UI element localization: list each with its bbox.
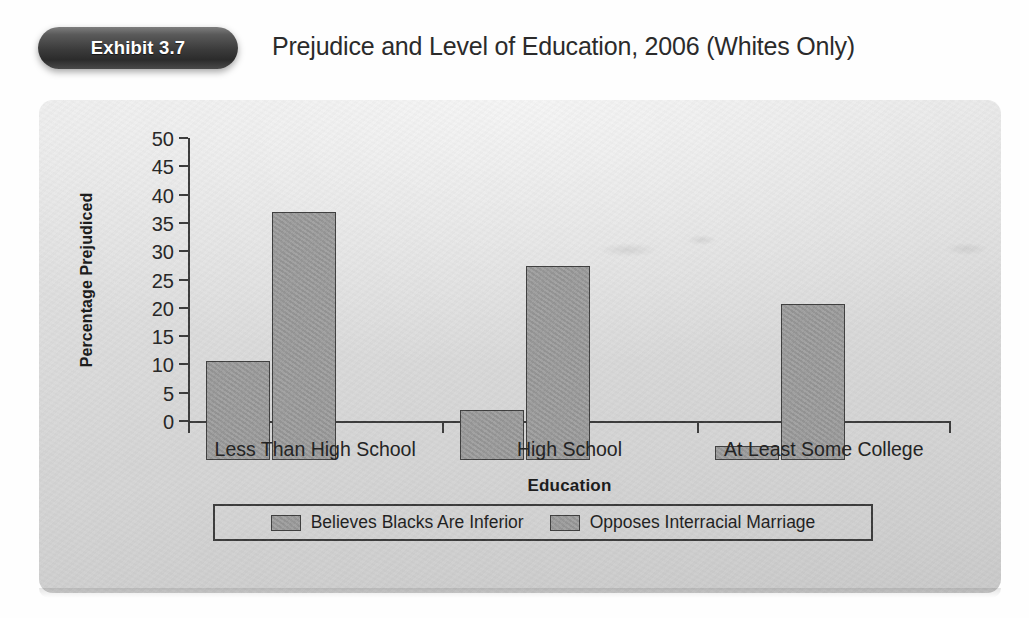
- y-axis-tick-label: 20: [134, 298, 174, 321]
- y-axis-tick-label: 5: [134, 383, 174, 406]
- y-axis-tick: [179, 307, 188, 309]
- y-axis-tick-label: 40: [134, 185, 174, 208]
- x-axis-title: Education: [188, 476, 951, 496]
- x-axis-separator: [442, 421, 444, 433]
- bar: [272, 212, 336, 460]
- y-axis-tick-label: 35: [134, 213, 174, 236]
- y-axis-tick-label: 50: [134, 128, 174, 151]
- y-axis-tick-label: 25: [134, 270, 174, 293]
- legend-item-label: Believes Blacks Are Inferior: [311, 512, 524, 533]
- legend-item-label: Opposes Interracial Marriage: [590, 512, 816, 533]
- y-axis-tick: [179, 194, 188, 196]
- x-axis-category-label: High School: [442, 438, 696, 461]
- x-axis-category-label: At Least Some College: [697, 438, 951, 461]
- x-axis-separator: [188, 421, 190, 433]
- y-axis-tick-label: 30: [134, 241, 174, 264]
- page-title: Prejudice and Level of Education, 2006 (…: [272, 32, 855, 61]
- y-axis-tick-label: 10: [134, 354, 174, 377]
- legend-item[interactable]: Opposes Interracial Marriage: [550, 512, 816, 533]
- y-axis-tick: [179, 363, 188, 365]
- legend-swatch-icon: [550, 515, 580, 531]
- legend-swatch-icon: [271, 515, 301, 531]
- page-canvas: Exhibit 3.7 Prejudice and Level of Educa…: [0, 0, 1029, 618]
- y-axis-tick: [179, 420, 188, 422]
- bar: [781, 304, 845, 460]
- y-axis-tick: [179, 250, 188, 252]
- plot-area: Percentage Prejudiced 504540353025201510…: [188, 138, 951, 462]
- exhibit-header: Exhibit 3.7 Prejudice and Level of Educa…: [0, 0, 1029, 96]
- y-axis-tick: [179, 137, 188, 139]
- bar-group: [188, 177, 442, 460]
- legend-item[interactable]: Believes Blacks Are Inferior: [271, 512, 524, 533]
- y-axis-tick: [179, 165, 188, 167]
- x-axis-category-label: Less Than High School: [188, 438, 442, 461]
- y-axis-tick: [179, 279, 188, 281]
- y-axis-tick: [179, 392, 188, 394]
- chart-legend: Believes Blacks Are InferiorOpposes Inte…: [213, 504, 873, 541]
- bar-group: [442, 177, 696, 460]
- exhibit-number-label: Exhibit 3.7: [91, 37, 186, 59]
- y-axis-tick-label: 15: [134, 326, 174, 349]
- y-axis-tick: [179, 222, 188, 224]
- y-axis-tick-label: 0: [134, 411, 174, 434]
- scan-artifact: [945, 243, 987, 255]
- y-axis-tick: [179, 335, 188, 337]
- bar: [526, 266, 590, 460]
- panel-shadow: [39, 588, 1001, 598]
- chart-panel: Percentage Prejudiced 504540353025201510…: [39, 100, 1001, 593]
- x-axis-separator: [697, 421, 699, 433]
- y-axis-title: Percentage Prejudiced: [78, 193, 96, 368]
- y-axis-tick-label: 45: [134, 156, 174, 179]
- bar-group: [697, 177, 951, 460]
- x-axis-separator: [949, 421, 951, 433]
- exhibit-number-badge: Exhibit 3.7: [38, 27, 238, 69]
